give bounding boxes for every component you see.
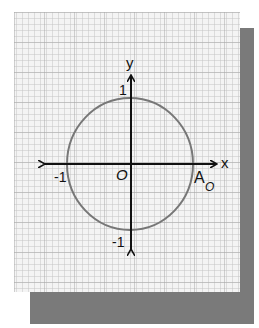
x-axis-label: x [221, 154, 229, 171]
unit-circle-diagram: y 1 x -1 O A O -1 [0, 0, 259, 328]
point-a-subscript: O [205, 180, 214, 194]
paper-shadow-bottom [30, 292, 254, 324]
paper-shadow-right [240, 28, 254, 324]
point-a-label: A [194, 169, 205, 186]
x-tick-neg-1: -1 [54, 169, 67, 185]
origin-label: O [116, 166, 128, 183]
y-tick-neg-1: -1 [112, 234, 125, 250]
y-tick-1: 1 [119, 82, 127, 98]
y-axis-label: y [126, 54, 134, 71]
